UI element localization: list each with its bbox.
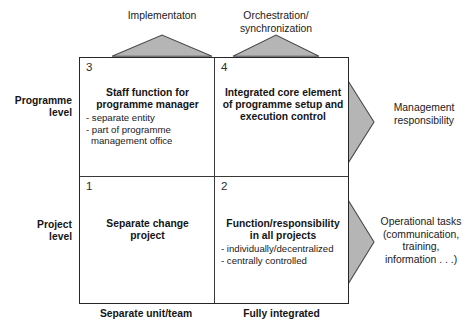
left-label-programme-level-line2: level xyxy=(0,107,72,119)
bottom-label-fully-integrated-text: Fully integrated xyxy=(243,308,320,319)
quadrant-3-title-line1: Staff function for xyxy=(86,87,209,99)
quadrant-3-title-line2: programme manager xyxy=(86,99,209,111)
quadrant-2-body: Function/responsibility in all projects … xyxy=(221,218,345,266)
bottom-label-fully-integrated: Fully integrated xyxy=(214,308,349,320)
quadrant-2[interactable]: 2 Function/responsibility in all project… xyxy=(215,177,350,305)
right-label-management-line2: responsibility xyxy=(378,115,470,128)
quadrant-4-title-line2: of programme setup and xyxy=(221,99,345,111)
quadrant-2-title-line1: Function/responsibility xyxy=(221,218,345,230)
left-label-programme-level-line1: Programme xyxy=(0,95,72,107)
up-arrow-implementation xyxy=(110,33,214,58)
quadrant-3-body: Staff function for programme manager - s… xyxy=(86,87,209,147)
quadrant-1-title-line2: project xyxy=(86,230,209,242)
quadrant-2-number: 2 xyxy=(221,180,345,192)
up-arrow-orchestration xyxy=(231,33,321,58)
right-label-operational-line2: (communication, xyxy=(371,229,471,242)
quadrant-1-body: Separate change project xyxy=(86,218,209,242)
right-label-operational-line1: Operational tasks xyxy=(371,216,471,229)
right-label-management-responsibility: Management responsibility xyxy=(378,102,470,127)
quadrant-4[interactable]: 4 Integrated core element of programme s… xyxy=(215,58,350,176)
quadrant-2-title-line2: in all projects xyxy=(221,230,345,242)
top-label-orchestration: Orchestration/ synchronization xyxy=(211,10,341,35)
right-label-operational-line4: information . . .) xyxy=(371,254,471,267)
right-arrow-management xyxy=(346,78,376,166)
quadrant-3-bullets: - separate entity - part of programme ma… xyxy=(86,112,209,146)
right-label-operational-tasks: Operational tasks (communication, traini… xyxy=(371,216,471,266)
quadrant-4-title-line3: execution control xyxy=(221,111,345,123)
quadrant-3-number: 3 xyxy=(86,61,209,73)
quadrant-4-title-line1: Integrated core element xyxy=(221,87,345,99)
quadrant-2-bullet-1: - individually/decentralized xyxy=(221,243,345,254)
quadrant-4-body: Integrated core element of programme set… xyxy=(221,87,345,124)
left-label-project-level-line1: Project xyxy=(0,219,72,231)
quadrant-1[interactable]: 1 Separate change project xyxy=(80,177,214,305)
bottom-label-separate-unit-team: Separate unit/team xyxy=(79,308,213,320)
right-label-operational-line3: training, xyxy=(371,241,471,254)
quadrant-3-bullet-1: - separate entity xyxy=(86,112,209,123)
bottom-label-separate-unit-team-text: Separate unit/team xyxy=(100,308,192,319)
diagram-canvas: Implementaton Orchestration/ synchroniza… xyxy=(0,0,473,333)
left-label-project-level: Project level xyxy=(0,219,72,244)
quadrant-2-bullets: - individually/decentralized - centrally… xyxy=(221,243,345,266)
quadrant-1-title-line1: Separate change xyxy=(86,218,209,230)
left-label-project-level-line2: level xyxy=(0,231,72,243)
left-label-programme-level: Programme level xyxy=(0,95,72,120)
top-label-orchestration-line1: Orchestration/ xyxy=(211,10,341,23)
quadrant-1-number: 1 xyxy=(86,180,209,192)
right-label-management-line1: Management xyxy=(378,102,470,115)
quadrant-3[interactable]: 3 Staff function for programme manager -… xyxy=(80,58,214,176)
matrix-box: 3 Staff function for programme manager -… xyxy=(79,57,349,304)
quadrant-3-bullet-2: - part of programme xyxy=(86,124,209,135)
quadrant-3-bullet-2-cont: management office xyxy=(86,135,209,146)
quadrant-2-bullet-2: - centrally controlled xyxy=(221,255,345,266)
top-label-orchestration-line2: synchronization xyxy=(211,23,341,36)
quadrant-4-number: 4 xyxy=(221,61,345,73)
